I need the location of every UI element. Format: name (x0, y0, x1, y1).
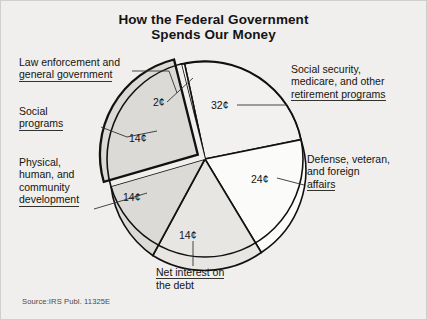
callout-law-enforcement-line-1: Law enforcement and (19, 56, 120, 68)
callout-net-interest-line-2: the debt (156, 279, 224, 291)
callout-physical-human-line-1: Physical, (19, 156, 79, 168)
callout-social-security-line-2: medicare, and other (291, 75, 386, 87)
chart-frame: How the Federal Government Spends Our Mo… (0, 0, 427, 320)
callout-law-enforcement-line-2: general government (19, 68, 112, 81)
value-social-security: 32¢ (211, 99, 229, 111)
callout-social-programs-line-2: programs (19, 117, 63, 130)
callout-social-security-line-3: retirement programs (291, 88, 386, 101)
value-social-programs: 14¢ (129, 132, 147, 144)
callout-social-programs-line-1: Social (19, 105, 63, 117)
callout-net-interest: Net interest on the debt (156, 266, 224, 292)
callout-physical-human-line-4: development (19, 193, 79, 206)
callout-social-security: Social security, medicare, and other ret… (291, 63, 386, 101)
callout-physical-human: Physical, human, and community developme… (19, 156, 79, 207)
source-note: Source:IRS Publ. 11325E (22, 297, 110, 306)
value-defense: 24¢ (251, 173, 269, 185)
value-physical-human: 14¢ (123, 191, 141, 203)
callout-defense-line-1: Defense, veteran, (307, 153, 390, 165)
callout-defense-line-2: and foreign (307, 165, 390, 177)
callout-physical-human-line-3: community (19, 181, 79, 193)
value-law-enforcement: 2¢ (153, 96, 165, 108)
callout-physical-human-line-2: human, and (19, 168, 79, 180)
pie-chart: Law enforcement and general government S… (1, 1, 427, 320)
value-net-interest: 14¢ (179, 229, 197, 241)
callout-net-interest-line-1: Net interest on (156, 266, 224, 279)
callout-social-security-line-1: Social security, (291, 63, 386, 75)
callout-defense: Defense, veteran, and foreign affairs (307, 153, 390, 191)
callout-law-enforcement: Law enforcement and general government (19, 56, 120, 82)
callout-defense-line-3: affairs (307, 178, 335, 191)
callout-social-programs: Social programs (19, 105, 63, 131)
